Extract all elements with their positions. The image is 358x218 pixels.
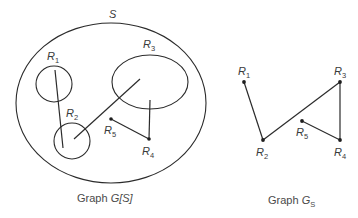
right-caption: Graph GS (268, 194, 315, 209)
gs-node-r1 (242, 80, 246, 84)
region-r1-label: R1 (47, 50, 59, 65)
gs-label-r2: R2 (256, 146, 268, 161)
region-r1 (36, 66, 72, 102)
edge-r1-r2 (55, 70, 63, 148)
region-r2 (54, 123, 90, 159)
gs-label-r3: R3 (334, 65, 346, 80)
diagram-canvas: S R1 R2 R3 R5 R4 Graph G[S] (0, 0, 358, 218)
gs-label-r4: R4 (334, 146, 346, 161)
gs-node-r3 (338, 80, 342, 84)
gs-edge-r1-r2 (244, 82, 263, 140)
edge-r5-r4 (111, 119, 149, 139)
node-r5 (109, 117, 113, 121)
gs-node-r5 (300, 119, 304, 123)
left-caption: Graph G[S] (77, 192, 134, 204)
left-diagram: S R1 R2 R3 R5 R4 Graph G[S] (16, 8, 206, 204)
set-s-boundary (16, 23, 206, 183)
right-diagram: R1 R2 R3 R4 R5 Graph GS (238, 65, 346, 209)
set-s-label: S (109, 8, 117, 20)
region-r5-label: R5 (104, 124, 116, 139)
region-r2-label: R2 (66, 107, 78, 122)
edge-r3-r4 (149, 100, 150, 139)
gs-label-r5: R5 (296, 126, 308, 141)
region-r4-label: R4 (142, 145, 154, 160)
gs-node-r2 (261, 138, 265, 142)
region-r3-label: R3 (143, 38, 155, 53)
gs-label-r1: R1 (238, 65, 250, 80)
gs-node-r4 (338, 138, 342, 142)
node-r4 (147, 137, 151, 141)
